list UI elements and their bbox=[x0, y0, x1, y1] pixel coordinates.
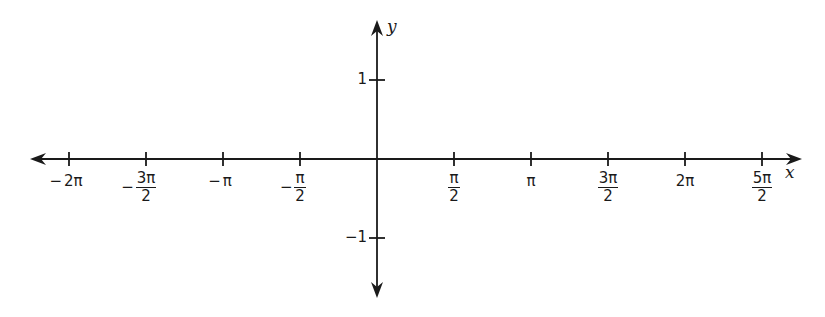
x-tick-label: 3π2 bbox=[598, 171, 619, 204]
x-tick-label: −π bbox=[208, 174, 232, 189]
x-tick-label: 2π bbox=[676, 174, 695, 189]
y-tick-label: −1 bbox=[345, 230, 367, 245]
y-tick-label: 1 bbox=[357, 72, 367, 87]
x-tick-label: 5π2 bbox=[752, 171, 773, 204]
x-tick-label: −3π2 bbox=[121, 171, 156, 204]
x-tick-label: π2 bbox=[448, 171, 459, 204]
x-tick-label: −2π bbox=[49, 174, 82, 189]
coordinate-plane bbox=[0, 0, 825, 317]
x-tick-label: π bbox=[526, 174, 535, 189]
y-axis-label: y bbox=[387, 18, 397, 35]
x-axis-label: x bbox=[785, 164, 795, 181]
x-tick-label: −π2 bbox=[280, 171, 306, 204]
